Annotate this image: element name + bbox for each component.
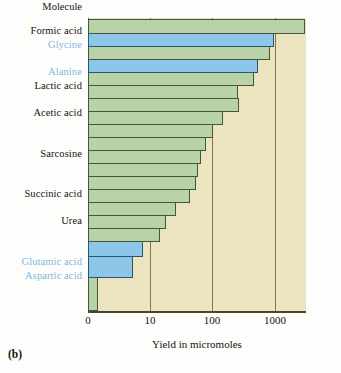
bar (88, 176, 196, 190)
bar (88, 150, 201, 164)
bar (88, 111, 223, 125)
bar (88, 228, 160, 242)
molecule-label: Formic acid (30, 25, 82, 36)
molecule-label: Glycine (48, 39, 82, 50)
bar (88, 189, 190, 203)
molecule-label: Succinic acid (24, 188, 82, 199)
bar (88, 59, 258, 73)
molecule-label-column: Formic acidGlycineAlanineLactic acidAcet… (0, 0, 86, 330)
bar (88, 256, 133, 278)
molecule-label: Glutamic acid (22, 256, 83, 267)
molecule-label: Alanine (48, 66, 82, 77)
molecule-label: Aspartic acid (25, 270, 82, 281)
bar (88, 163, 198, 177)
x-axis-ticks: 0101001000 (0, 314, 341, 330)
x-axis-line (88, 311, 306, 313)
bar (88, 202, 176, 216)
bar-group (88, 18, 306, 312)
bar (88, 277, 98, 311)
bar (88, 137, 206, 151)
bar (88, 33, 274, 47)
x-axis-label: Yield in micromoles (88, 338, 306, 350)
molecule-label: Lactic acid (35, 80, 82, 91)
x-tick-label: 10 (145, 314, 156, 326)
molecule-label: Urea (61, 215, 82, 226)
bar (88, 98, 239, 112)
x-tick-label: 100 (204, 314, 221, 326)
bar (88, 85, 238, 99)
panel-identifier: (b) (8, 348, 22, 360)
x-tick-label: 1000 (264, 314, 286, 326)
bar (88, 215, 166, 229)
bar (88, 19, 305, 34)
x-tick-label: 0 (85, 314, 91, 326)
bar (88, 124, 213, 138)
bar (88, 46, 270, 60)
molecule-label: Acetic acid (33, 107, 82, 118)
bar (88, 72, 254, 86)
bar (88, 241, 143, 257)
figure-panel-b: Molecule Formic acidGlycineAlanineLactic… (0, 0, 341, 373)
molecule-label: Sarcosine (40, 148, 82, 159)
